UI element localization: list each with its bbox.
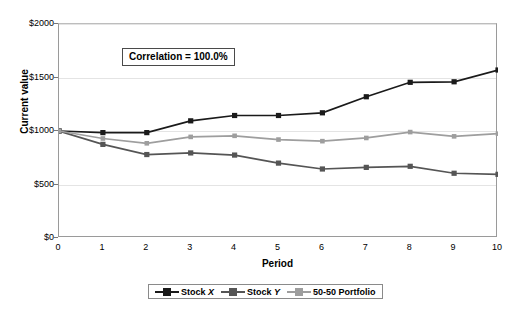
data-point-marker	[495, 172, 498, 177]
data-point-marker	[100, 130, 105, 135]
plot-area: Correlation = 100.0%	[58, 23, 497, 237]
series-line	[59, 70, 498, 133]
data-point-marker	[452, 79, 457, 84]
legend-key-icon	[221, 287, 245, 297]
legend-label-text: 50-50 Portfolio	[313, 287, 376, 297]
data-point-marker	[188, 135, 193, 140]
data-point-marker	[232, 152, 237, 157]
x-axis-tick-label: 0	[43, 242, 73, 252]
data-point-marker	[144, 152, 149, 157]
data-point-marker	[364, 94, 369, 99]
data-point-marker	[276, 113, 281, 118]
legend-label: 50-50 Portfolio	[313, 287, 376, 297]
legend-label-symbol: Y	[274, 287, 280, 297]
x-axis-tick-label: 6	[306, 242, 336, 252]
data-point-marker	[232, 113, 237, 118]
data-point-marker	[452, 134, 457, 139]
chart-legend: Stock XStock Y50-50 Portfolio	[148, 284, 383, 299]
line-chart: Current value $0$500$1000$1500$2000 Corr…	[0, 0, 508, 319]
data-point-marker	[276, 161, 281, 166]
data-point-marker	[320, 166, 325, 171]
x-axis-tick-label: 7	[350, 242, 380, 252]
x-axis-title: Period	[58, 258, 497, 269]
data-point-marker	[495, 67, 498, 72]
y-axis-tick-label: $0	[8, 232, 54, 242]
x-axis-tick-label: 10	[482, 242, 508, 252]
x-axis-tick-label: 8	[394, 242, 424, 252]
data-point-marker	[408, 80, 413, 85]
data-point-marker	[364, 165, 369, 170]
x-axis-tick-label: 9	[438, 242, 468, 252]
x-axis-tick-label: 4	[219, 242, 249, 252]
data-point-marker	[320, 139, 325, 144]
legend-key-icon	[287, 287, 311, 297]
x-axis-tick-label: 5	[263, 242, 293, 252]
y-axis-tick-mark	[54, 237, 58, 238]
data-point-marker	[452, 171, 457, 176]
y-axis-tick-label: $1000	[8, 125, 54, 135]
data-point-marker	[188, 118, 193, 123]
data-point-marker	[496, 131, 498, 136]
legend-item: Stock Y	[221, 287, 280, 297]
legend-label-text: Stock	[181, 287, 208, 297]
data-point-marker	[232, 134, 237, 139]
y-axis-tick-label: $500	[8, 179, 54, 189]
data-point-marker	[188, 150, 193, 155]
legend-label: Stock X	[181, 287, 214, 297]
data-point-marker	[276, 137, 281, 142]
legend-label-text: Stock	[247, 287, 274, 297]
y-axis-title: Current value	[19, 42, 30, 162]
y-axis-tick-label: $2000	[8, 18, 54, 28]
data-point-marker	[144, 130, 149, 135]
legend-key-icon	[155, 287, 179, 297]
legend-item: Stock X	[155, 287, 214, 297]
x-axis-tick-label: 2	[131, 242, 161, 252]
data-point-marker	[100, 142, 105, 147]
data-point-marker	[408, 164, 413, 169]
data-point-marker	[408, 130, 413, 135]
legend-item: 50-50 Portfolio	[287, 287, 376, 297]
legend-label-symbol: X	[208, 287, 214, 297]
y-axis-tick-label: $1500	[8, 72, 54, 82]
x-axis-tick-label: 3	[175, 242, 205, 252]
x-axis-tick-label: 1	[87, 242, 117, 252]
legend-label: Stock Y	[247, 287, 280, 297]
correlation-annotation: Correlation = 100.0%	[122, 48, 235, 66]
y-axis: Current value $0$500$1000$1500$2000	[0, 0, 54, 319]
data-point-marker	[145, 141, 150, 146]
data-point-marker	[320, 110, 325, 115]
data-point-marker	[101, 136, 106, 141]
data-point-marker	[364, 136, 369, 141]
data-point-marker	[59, 129, 61, 134]
